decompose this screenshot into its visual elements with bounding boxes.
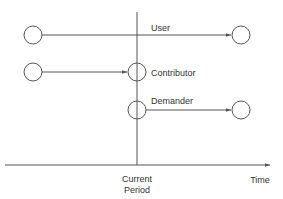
demander-row: Demander (128, 96, 250, 119)
current-period-label-line1: Current (122, 174, 153, 184)
time-axis-label: Time (250, 175, 270, 185)
current-period-label-line2: Period (124, 185, 150, 195)
contributor-row: Contributor (24, 63, 196, 81)
time-role-diagram: User Contributor Demander Current Period… (0, 0, 283, 199)
contributor-label: Contributor (151, 68, 196, 78)
user-start-node (24, 26, 42, 44)
demander-end-node (232, 101, 250, 119)
demander-label: Demander (151, 96, 193, 106)
contributor-start-node (24, 63, 42, 81)
user-label: User (151, 23, 170, 33)
user-end-node (232, 26, 250, 44)
